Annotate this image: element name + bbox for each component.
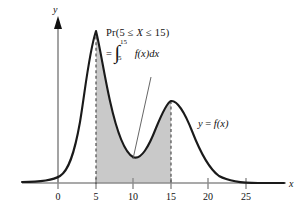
probability-variable: X xyxy=(137,27,144,38)
x-axis-label: x xyxy=(289,178,293,189)
curve-equation-label: y = f(x) xyxy=(198,118,228,129)
probability-suffix: ) xyxy=(166,27,170,38)
x-tick-label-15: 15 xyxy=(159,191,183,202)
integral-lower-limit: 5 xyxy=(118,54,122,62)
probability-density-figure: y x 0 5 10 15 20 25 Pr(5 ≤ X ≤ 15) = ∫15… xyxy=(0,0,304,214)
y-axis-arrowhead xyxy=(54,16,62,29)
x-tick-label-25: 25 xyxy=(234,191,258,202)
curve-label-y: y xyxy=(198,118,203,129)
integral-equals: = xyxy=(106,48,112,59)
probability-prefix: Pr( xyxy=(106,27,119,38)
probability-annotation: Pr(5 ≤ X ≤ 15) xyxy=(106,27,169,38)
x-tick-label-20: 20 xyxy=(196,191,220,202)
curve-label-equals: = xyxy=(205,118,211,129)
le-left-operator: ≤ xyxy=(128,27,134,38)
y-axis-label: y xyxy=(53,4,57,15)
x-tick-label-0: 0 xyxy=(46,191,70,202)
le-right-operator: ≤ xyxy=(146,27,152,38)
integral-upper-limit: 15 xyxy=(120,38,127,46)
probability-lower-bound: 5 xyxy=(119,27,124,38)
x-tick-label-10: 10 xyxy=(121,191,145,202)
x-tick-label-5: 5 xyxy=(84,191,108,202)
x-axis-label-text: x xyxy=(289,178,293,189)
integrand-expression: f(x)dx xyxy=(135,48,159,59)
y-axis-label-text: y xyxy=(53,4,57,15)
integral-limits: 155 xyxy=(120,49,132,61)
integral-annotation: = ∫155 f(x)dx xyxy=(106,48,159,61)
curve-label-function: f(x) xyxy=(214,118,229,129)
probability-upper-bound: 15 xyxy=(155,27,166,38)
